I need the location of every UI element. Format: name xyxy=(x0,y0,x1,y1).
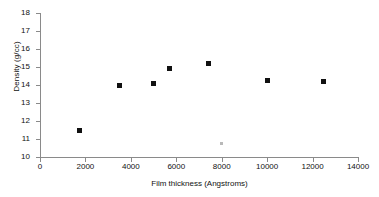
y-tick-label: 11 xyxy=(6,135,30,143)
data-point xyxy=(206,61,211,66)
x-tick-label: 2000 xyxy=(62,162,108,171)
y-axis-title: Density (g/cc) xyxy=(12,7,21,127)
x-tick-label: 6000 xyxy=(153,162,199,171)
data-point xyxy=(167,66,172,71)
y-tick xyxy=(36,49,41,50)
y-tick xyxy=(36,31,41,32)
x-tick-label: 10000 xyxy=(244,162,290,171)
y-tick xyxy=(36,139,41,140)
y-tick-label: 10 xyxy=(6,153,30,161)
data-point xyxy=(220,142,223,145)
x-axis-title: Film thickness (Angstroms) xyxy=(40,179,359,188)
data-point xyxy=(117,83,122,88)
data-point xyxy=(151,81,156,86)
x-axis-line xyxy=(40,157,359,158)
y-tick xyxy=(36,13,41,14)
x-tick-label: 4000 xyxy=(108,162,154,171)
y-tick xyxy=(36,103,41,104)
x-tick-label: 0 xyxy=(17,162,63,171)
y-tick xyxy=(36,85,41,86)
y-tick xyxy=(36,67,41,68)
x-tick-label: 12000 xyxy=(290,162,336,171)
data-point xyxy=(77,128,82,133)
data-point xyxy=(265,78,270,83)
scatter-chart: 101112131415161718 020004000600080001000… xyxy=(0,0,379,197)
x-tick-label: 8000 xyxy=(199,162,245,171)
x-tick-label: 14000 xyxy=(335,162,379,171)
y-tick xyxy=(36,121,41,122)
data-point xyxy=(321,79,326,84)
